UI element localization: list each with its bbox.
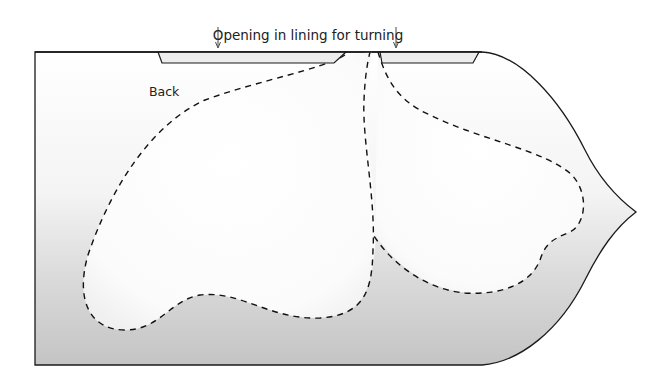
opening-annotation: Opening in lining for turning [213, 27, 404, 43]
right-lining-strip [380, 52, 479, 63]
left-lining-strip [158, 52, 346, 63]
pattern-diagram: Opening in lining for turning Back [0, 0, 650, 387]
back-piece-label: Back [149, 84, 180, 99]
